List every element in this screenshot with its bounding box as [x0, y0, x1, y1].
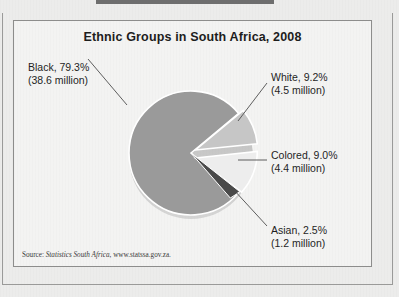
pie-label-black: Black, 79.3% (38.6 million): [28, 61, 89, 86]
pie-label-black-line1: Black, 79.3%: [28, 61, 89, 73]
source-publisher: Statistics South Africa: [46, 251, 110, 259]
leader-line-black: [88, 59, 127, 105]
pie-label-asian-line2: (1.2 million): [271, 237, 327, 250]
pie-slice-colored: [196, 152, 258, 193]
pie-slice-black: [129, 91, 239, 215]
chart-title: Ethnic Groups in South Africa, 2008: [14, 30, 371, 44]
pie-label-white: White, 9.2% (4.5 million): [271, 71, 328, 96]
page-top-bar: [96, 0, 274, 4]
pie-label-colored-line2: (4.4 million): [271, 162, 338, 175]
pie-base-shadow: [129, 95, 253, 219]
source-prefix: Source:: [22, 251, 46, 259]
source-url: , www.statssa.gov.za.: [110, 251, 171, 259]
pie-slice-asian: [191, 153, 240, 198]
pie-label-white-line2: (4.5 million): [271, 84, 328, 97]
source-note: Source: Statistics South Africa, www.sta…: [22, 251, 171, 259]
pie-label-colored: Colored, 9.0% (4.4 million): [271, 149, 338, 174]
pie-label-colored-line1: Colored, 9.0%: [271, 149, 338, 161]
pie-label-black-line2: (38.6 million): [28, 74, 89, 87]
leader-line-white: [238, 83, 267, 121]
pie-slice-white: [196, 110, 258, 150]
pie-label-white-line1: White, 9.2%: [271, 71, 328, 83]
page-rule-bottom: [2, 284, 393, 285]
leader-line-asian: [233, 189, 267, 226]
figure-frame: Ethnic Groups in South Africa, 2008: [13, 20, 372, 267]
page-rule-left: [2, 13, 3, 285]
pie-label-asian-line1: Asian, 2.5%: [271, 224, 327, 236]
page-rule-right: [392, 13, 393, 285]
pie-label-asian: Asian, 2.5% (1.2 million): [271, 224, 327, 249]
